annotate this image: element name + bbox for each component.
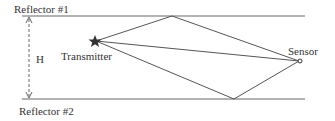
- reflector-2-label: Reflector #2: [19, 106, 74, 117]
- sensor-label: Sensor: [288, 46, 318, 57]
- direct-path: [96, 41, 299, 61]
- transmitter-star-icon: [89, 35, 102, 47]
- transmitter-label: Transmitter: [61, 51, 112, 62]
- reflector-1-label: Reflector #1: [14, 4, 69, 15]
- height-label: H: [36, 54, 44, 65]
- sensor-icon: [298, 59, 302, 63]
- multipath-diagram: [0, 0, 335, 121]
